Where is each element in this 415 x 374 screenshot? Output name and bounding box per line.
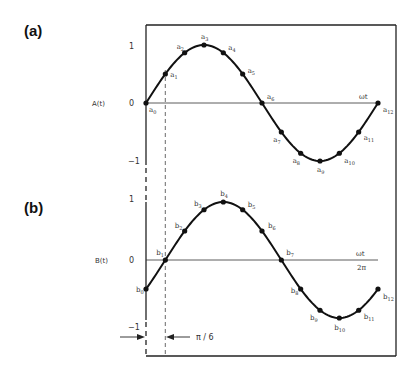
point-label-b4: b4 bbox=[220, 190, 228, 199]
point-label-b5: b5 bbox=[248, 201, 256, 210]
point-label-a1: a1 bbox=[170, 71, 177, 80]
a-sample-points: a0a1a2a3a4a5a6a7a8a9a10a11a12 bbox=[143, 33, 393, 175]
right-arrow-head bbox=[166, 334, 174, 340]
point-a5 bbox=[240, 71, 245, 76]
point-a7 bbox=[279, 129, 284, 134]
point-a9 bbox=[317, 158, 322, 163]
point-b0 bbox=[143, 286, 148, 291]
point-a6 bbox=[259, 100, 264, 105]
b-tick-pos: 1 bbox=[129, 195, 134, 204]
point-label-b12: b12 bbox=[383, 293, 394, 302]
point-b12 bbox=[375, 286, 380, 291]
point-label-b0: b0 bbox=[136, 286, 144, 295]
point-b11 bbox=[356, 308, 361, 313]
point-label-a8: a8 bbox=[293, 157, 300, 166]
b-tick-neg: −1 bbox=[128, 323, 140, 332]
point-label-b3: b3 bbox=[194, 200, 202, 209]
point-a1 bbox=[163, 71, 168, 76]
point-a4 bbox=[221, 50, 226, 55]
point-label-b2: b2 bbox=[175, 222, 183, 231]
b-tick-zero: 0 bbox=[129, 256, 134, 265]
point-a3 bbox=[201, 42, 206, 47]
point-label-a7: a7 bbox=[273, 136, 280, 145]
point-label-a9: a9 bbox=[317, 166, 324, 175]
point-b3 bbox=[201, 207, 206, 212]
b-x-axis-label: ωt bbox=[356, 250, 365, 258]
a-tick-pos: 1 bbox=[129, 42, 134, 51]
b-x-end-label: 2π bbox=[357, 264, 366, 272]
point-b10 bbox=[337, 315, 342, 320]
b-y-axis-label: B(t) bbox=[95, 257, 108, 265]
panel-label-b: (b) bbox=[24, 199, 43, 216]
phase-shift-diagram: (a) (b) A(t) 1 0 −1 ωt B(t) 1 0 −1 ωt 2π… bbox=[0, 0, 415, 374]
point-label-a10: a10 bbox=[344, 157, 355, 166]
phase-shift-label: π / 6 bbox=[196, 333, 214, 342]
point-label-b11: b11 bbox=[364, 313, 375, 322]
point-label-a5: a5 bbox=[248, 67, 255, 76]
point-b7 bbox=[279, 257, 284, 262]
point-label-b1: b1 bbox=[156, 249, 164, 258]
point-a10 bbox=[337, 151, 342, 156]
point-label-a11: a11 bbox=[364, 134, 375, 143]
point-label-a2: a2 bbox=[177, 43, 184, 52]
point-label-a4: a4 bbox=[228, 44, 235, 53]
point-label-a6: a6 bbox=[267, 93, 274, 102]
point-label-b10: b10 bbox=[334, 324, 345, 333]
point-a12 bbox=[375, 100, 380, 105]
point-label-a12: a12 bbox=[383, 106, 394, 115]
a-tick-neg: −1 bbox=[128, 157, 140, 166]
point-a11 bbox=[356, 129, 361, 134]
point-b4 bbox=[221, 199, 226, 204]
point-a0 bbox=[143, 100, 148, 105]
point-label-b6: b6 bbox=[268, 222, 276, 231]
point-label-a3: a3 bbox=[201, 33, 208, 42]
a-x-axis-label: ωt bbox=[359, 93, 368, 101]
a-tick-zero: 0 bbox=[129, 99, 134, 108]
point-label-b9: b9 bbox=[310, 314, 318, 323]
point-a8 bbox=[298, 151, 303, 156]
point-b1 bbox=[163, 257, 168, 262]
point-label-b8: b8 bbox=[291, 287, 299, 296]
point-b9 bbox=[317, 308, 322, 313]
point-b8 bbox=[298, 286, 303, 291]
a-y-axis-label: A(t) bbox=[92, 100, 105, 108]
panel-label-a: (a) bbox=[24, 22, 42, 39]
point-b5 bbox=[240, 207, 245, 212]
point-label-b7: b7 bbox=[286, 249, 294, 258]
point-label-a0: a0 bbox=[149, 106, 156, 115]
point-b2 bbox=[182, 228, 187, 233]
left-arrow-head bbox=[137, 334, 145, 340]
point-b6 bbox=[259, 228, 264, 233]
